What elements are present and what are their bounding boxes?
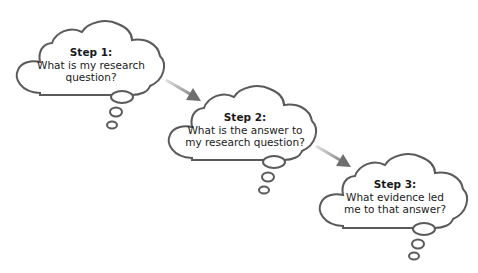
step-3-line-2: me to that answer? xyxy=(335,203,455,216)
step-1-text: Step 1: What is my research question? xyxy=(36,46,146,84)
step-2-line-1: What is the answer to xyxy=(180,124,310,137)
step-1-title: Step 1: xyxy=(36,46,146,59)
step-1-line-1: What is my research xyxy=(36,59,146,72)
step-3-line-1: What evidence led xyxy=(335,191,455,204)
arrow-step-1-to-2 xyxy=(166,80,201,101)
step-3-title: Step 3: xyxy=(335,178,455,191)
step-2-line-2: my research question? xyxy=(180,136,310,149)
arrow-step-2-to-3 xyxy=(316,146,351,167)
step-2-title: Step 2: xyxy=(180,111,310,124)
step-3-text: Step 3: What evidence led me to that ans… xyxy=(335,178,455,216)
step-2-text: Step 2: What is the answer to my researc… xyxy=(180,111,310,149)
step-1-line-2: question? xyxy=(36,71,146,84)
